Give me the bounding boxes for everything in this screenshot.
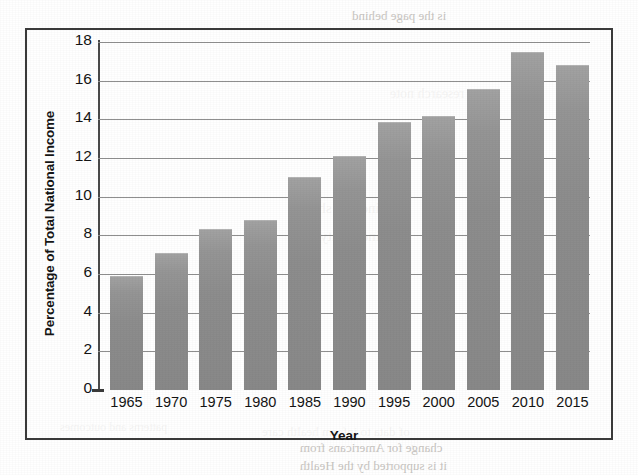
- y-axis-tick-label: 16: [52, 70, 92, 88]
- bar-1995[interactable]: [378, 122, 411, 390]
- bar-1970[interactable]: [155, 253, 188, 390]
- gridline: [98, 42, 590, 43]
- bar-1990[interactable]: [333, 156, 366, 390]
- bar-1965[interactable]: [110, 276, 143, 390]
- bar-2015[interactable]: [556, 65, 589, 390]
- bleed-through-text: is the page behind: [352, 8, 446, 24]
- bar-1975[interactable]: [199, 229, 232, 390]
- y-axis-tick-label: 10: [52, 186, 92, 204]
- x-axis-tick-label-2005: 2005: [467, 394, 499, 410]
- bar-2000[interactable]: [422, 116, 455, 390]
- x-axis-tick-label-2015: 2015: [556, 394, 588, 410]
- y-axis-tick-label: 18: [52, 31, 92, 49]
- x-axis-tick-label-1975: 1975: [200, 394, 232, 410]
- bar-2005[interactable]: [467, 89, 500, 390]
- y-axis-tick-label: 6: [52, 263, 92, 281]
- x-axis-tick-label-2010: 2010: [512, 394, 544, 410]
- bar-2010[interactable]: [511, 52, 544, 390]
- x-axis-tick-label-1970: 1970: [155, 394, 187, 410]
- plot-area: 024681012141618: [98, 42, 590, 390]
- y-axis-tick-label: 14: [52, 108, 92, 126]
- y-axis-tick-label: 0: [52, 379, 92, 397]
- x-axis-tick-label-1995: 1995: [378, 394, 410, 410]
- bleed-through-text: it is supported by the Health: [300, 458, 447, 474]
- bar-1985[interactable]: [288, 177, 321, 390]
- x-axis-title: Year: [98, 428, 590, 443]
- y-axis-tick-label: 12: [52, 147, 92, 165]
- x-axis-tick-label-2000: 2000: [423, 394, 455, 410]
- x-axis-tick-label-1985: 1985: [289, 394, 321, 410]
- x-axis-tick-label-1965: 1965: [110, 394, 142, 410]
- y-axis-tick-label: 8: [52, 224, 92, 242]
- x-axis-tick-label-1980: 1980: [244, 394, 276, 410]
- bar-1980[interactable]: [244, 220, 277, 390]
- y-axis-tick-label: 4: [52, 302, 92, 320]
- y-axis-tick-label: 2: [52, 340, 92, 358]
- x-axis-tick-label-1990: 1990: [333, 394, 365, 410]
